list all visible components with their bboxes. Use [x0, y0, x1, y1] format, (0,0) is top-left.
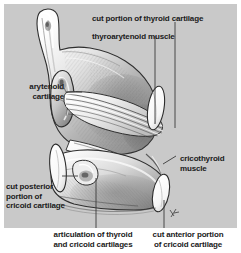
caption-strip: articulation of thyroid and cricoid cart…: [0, 228, 241, 253]
caption-cut-anterior-portion-of-cricoid-cartilage: cut anterior portion of cricoid cartilag…: [136, 230, 240, 250]
label-arytenoid-cartilage: arytenoid cartilage: [4, 82, 64, 101]
anatomical-figure: cut portion of thyroid cartilage thyroar…: [0, 0, 241, 253]
label-cut-portion-of-thyroid-cartilage: cut portion of thyroid cartilage: [92, 14, 203, 24]
illustration-plate: cut portion of thyroid cartilage thyroar…: [4, 4, 237, 228]
label-cut-posterior-portion-of-cricoid-cartilage: cut posterior portion of cricoid cartila…: [6, 182, 78, 211]
label-cricothyroid-muscle: cricothyroid muscle: [180, 154, 224, 173]
label-thyroarytenoid-muscle: thyroarytenoid muscle: [92, 32, 175, 42]
